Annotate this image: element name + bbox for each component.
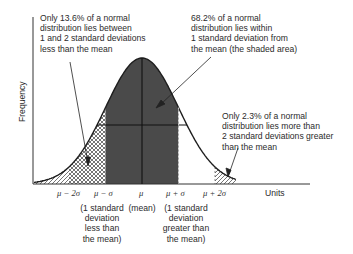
left-tail-leader: [70, 62, 88, 163]
tick-note-plus-sigma: (1 standard deviation greater than the m…: [158, 203, 214, 244]
center-leader: [160, 57, 211, 105]
tick-note-mean: (mean): [125, 203, 159, 213]
tick-mu-plus-sigma: μ + σ: [166, 188, 185, 198]
x-axis-label: Units: [265, 188, 285, 198]
right-tail-annotation: Only 2.3% of a normal distribution lies …: [222, 111, 333, 152]
y-axis-label: Frequency: [17, 81, 27, 122]
distribution-regions: [34, 58, 236, 184]
tick-mu-plus-2sigma: μ + 2σ: [203, 188, 226, 198]
tick-mu-minus-sigma: μ − σ: [94, 188, 113, 198]
center-annotation: 68.2% of a normal distribution lies with…: [191, 13, 297, 54]
tick-mu: μ: [139, 188, 143, 198]
tick-note-minus-sigma: (1 standard deviation less than the mean…: [77, 203, 127, 244]
tick-mu-minus-2sigma: μ − 2σ: [57, 188, 80, 198]
left-tail-annotation: Only 13.6% of a normal distribution lies…: [40, 13, 146, 54]
